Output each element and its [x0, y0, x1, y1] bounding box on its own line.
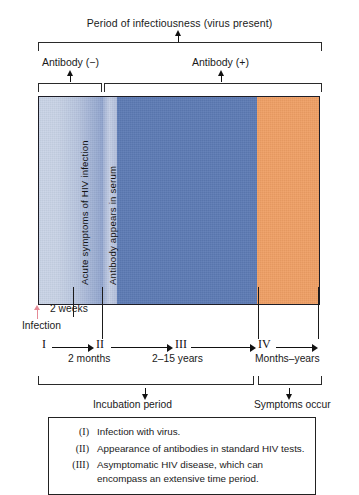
stage-arrow-4: [276, 344, 318, 352]
legend-text-1: Infection with virus.: [97, 425, 311, 439]
duration-two-months: 2 months: [68, 353, 110, 364]
legend-text-3: Asymptomatic HIV disease, which can enco…: [97, 458, 311, 485]
tick-symptom-onset: [258, 287, 259, 339]
antibody-negative-label: Antibody (−): [42, 56, 99, 68]
stage-numeral-3: III: [175, 337, 187, 352]
stage-numeral-1: I: [42, 337, 46, 352]
tick-seroconversion: [102, 287, 103, 339]
stage-numeral-2: II: [96, 337, 104, 352]
antibody-appears-vertical-label: Antibody appears in serum: [107, 166, 118, 285]
antibody-positive-label: Antibody (+): [192, 56, 249, 68]
legend-item-1: (I) Infection with virus.: [49, 425, 311, 439]
antibody-positive-bracket: [104, 83, 322, 92]
stage-arrow-3: [191, 344, 256, 352]
stage-arrow-2: [111, 344, 173, 352]
symptoms-occur-bracket: [258, 376, 322, 385]
stage-arrow-1: [52, 344, 94, 352]
band-symptomatic: [257, 97, 319, 304]
legend-item-2: (II) Appearance of antibodies in standar…: [49, 442, 311, 456]
duration-two-to-fifteen-years: 2–15 years: [152, 353, 203, 364]
antibody-negative-bracket: [38, 83, 102, 92]
two-weeks-label: 2 weeks: [50, 303, 88, 314]
duration-months-years: Months–years: [255, 353, 320, 364]
stage-numeral-4: IV: [258, 337, 271, 352]
acute-symptoms-vertical-label: Acute symptoms of HIV infection: [79, 140, 90, 285]
infectiousness-bracket: [38, 42, 322, 51]
band-acute-symptoms: [39, 97, 103, 304]
period-of-infectiousness-title: Period of infectiousness (virus present): [0, 17, 359, 29]
tick-timeline-end: [318, 287, 319, 339]
legend-item-3: (III) Asymptomatic HIV disease, which ca…: [49, 458, 311, 485]
band-asymptomatic: [117, 97, 257, 304]
legend-numeral-1: (I): [49, 425, 97, 439]
legend-box: (I) Infection with virus. (II) Appearanc…: [48, 417, 316, 495]
incubation-period-label: Incubation period: [93, 399, 172, 410]
symptoms-occur-label: Symptoms occur: [254, 399, 331, 410]
legend-numeral-2: (II): [49, 442, 97, 456]
infection-label: Infection: [22, 320, 61, 331]
incubation-period-bracket: [38, 376, 254, 385]
legend-numeral-3: (III): [49, 458, 97, 472]
legend-text-2: Appearance of antibodies in standard HIV…: [97, 442, 311, 456]
